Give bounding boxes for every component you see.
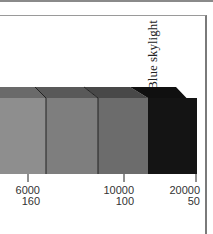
tick-label-6000: 6000 160: [4, 185, 40, 207]
tick-mired: 50: [168, 196, 200, 207]
tick-label-10000: 10000 100: [98, 185, 134, 207]
segment-4-front: [148, 98, 197, 174]
segment-2-front: [46, 98, 98, 174]
tick-mired: 160: [4, 196, 40, 207]
segment-3-front: [98, 98, 148, 174]
tick-label-20000: 20000 50: [168, 185, 200, 207]
tick-mired: 100: [98, 196, 134, 207]
segment-1-front: [0, 98, 46, 174]
